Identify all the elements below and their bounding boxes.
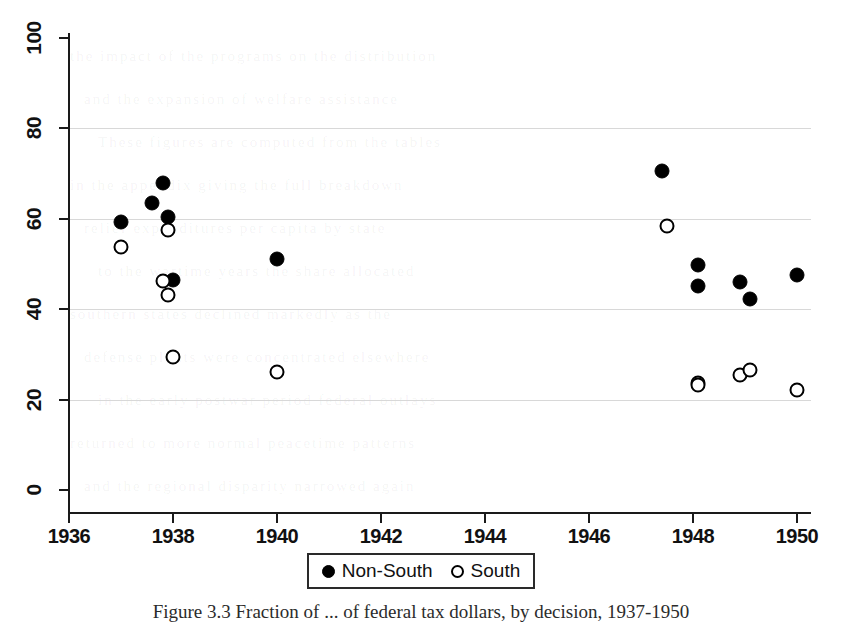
figure-caption: Figure 3.3 Fraction of ... of federal ta…: [0, 601, 842, 623]
x-tick-label-1936: 1936: [48, 525, 91, 548]
data-point-south-0: [114, 239, 129, 254]
x-tick-1944: [484, 514, 486, 523]
y-tick-label-40: 40: [22, 298, 46, 320]
x-axis-line: [68, 512, 811, 514]
gridline-y-40: [69, 309, 811, 310]
data-point-south-8: [691, 378, 706, 393]
data-point-non-south-8: [691, 279, 706, 294]
y-tick-label-0: 0: [22, 484, 46, 495]
x-tick-1950: [796, 514, 798, 523]
data-point-non-south-5: [270, 252, 285, 267]
data-point-non-south-7: [691, 257, 706, 272]
data-point-south-11: [790, 382, 805, 397]
plot-area: [69, 30, 811, 513]
y-tick-label-20: 20: [22, 388, 46, 410]
x-tick-1946: [588, 514, 590, 523]
data-point-non-south-11: [790, 267, 805, 282]
y-tick-100: [59, 37, 69, 39]
x-tick-label-1948: 1948: [672, 525, 715, 548]
x-tick-label-1942: 1942: [360, 525, 403, 548]
data-point-south-2: [160, 222, 175, 237]
y-tick-label-60: 60: [22, 208, 46, 230]
gridline-y-20: [69, 400, 811, 401]
data-point-south-5: [270, 365, 285, 380]
data-point-non-south-1: [145, 196, 160, 211]
x-tick-1938: [172, 514, 174, 523]
x-tick-1936: [68, 514, 70, 523]
legend-label-south: South: [471, 560, 521, 582]
data-point-non-south-10: [743, 291, 758, 306]
y-tick-label-80: 80: [22, 117, 46, 139]
gridline-y-80: [69, 128, 811, 129]
x-tick-1948: [692, 514, 694, 523]
gridline-y-60: [69, 219, 811, 220]
data-point-non-south-9: [732, 274, 747, 289]
x-tick-label-1950: 1950: [776, 525, 819, 548]
y-axis-line: [68, 33, 70, 514]
y-tick-80: [59, 127, 69, 129]
legend-entry-south: South: [451, 560, 521, 582]
data-point-non-south-2: [155, 175, 170, 190]
y-tick-40: [59, 308, 69, 310]
x-tick-label-1946: 1946: [568, 525, 611, 548]
open-circle-icon: [451, 565, 464, 578]
y-tick-0: [59, 489, 69, 491]
data-point-south-10: [743, 363, 758, 378]
data-point-south-1: [155, 273, 170, 288]
x-tick-label-1938: 1938: [152, 525, 195, 548]
data-point-south-3: [160, 287, 175, 302]
data-point-non-south-6: [654, 163, 669, 178]
y-tick-20: [59, 399, 69, 401]
data-point-non-south-0: [114, 215, 129, 230]
filled-circle-icon: [322, 565, 335, 578]
y-tick-60: [59, 218, 69, 220]
x-tick-label-1944: 1944: [464, 525, 507, 548]
legend-label-non-south: Non-South: [342, 560, 433, 582]
legend-entry-non-south: Non-South: [322, 560, 433, 582]
data-point-south-6: [660, 219, 675, 234]
data-point-south-4: [166, 350, 181, 365]
legend: Non-South South: [307, 553, 535, 589]
x-tick-1940: [276, 514, 278, 523]
y-tick-label-100: 100: [22, 21, 46, 55]
x-tick-label-1940: 1940: [256, 525, 299, 548]
x-tick-1942: [380, 514, 382, 523]
